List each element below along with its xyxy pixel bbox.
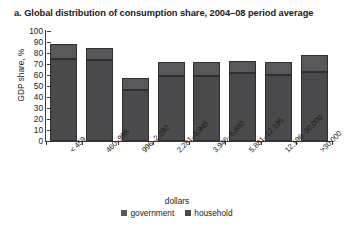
y-axis-tick: 80 (0, 48, 52, 58)
plot-area (46, 31, 332, 141)
y-axis-tick-label: 90 (34, 37, 43, 47)
legend-swatch-household (185, 210, 191, 216)
y-axis-tick-label: 70 (34, 59, 43, 69)
y-axis-tick-label: 100 (29, 26, 43, 36)
y-axis-tick: 70 (0, 59, 52, 69)
y-axis-tick: 40 (0, 92, 52, 102)
y-axis-tick: 30 (0, 103, 52, 113)
y-axis-tick: 90 (0, 37, 52, 47)
bar-segment-government[interactable] (86, 48, 113, 60)
bar-group[interactable] (86, 48, 113, 142)
y-axis-tick-label: 30 (34, 103, 43, 113)
y-axis-tick-label: 10 (34, 125, 43, 135)
bar-group[interactable] (50, 44, 77, 141)
bar-segment-government[interactable] (229, 61, 256, 73)
bar-segment-government[interactable] (193, 62, 220, 76)
chart-figure: a. Global distribution of consumption sh… (0, 0, 354, 227)
y-axis-tick: 0 (0, 136, 52, 146)
y-axis-tick-label: 20 (34, 114, 43, 124)
bar-segment-government[interactable] (265, 62, 292, 75)
y-axis-tick: 60 (0, 70, 52, 80)
y-axis-tick: 100 (0, 26, 52, 36)
bar-segment-household[interactable] (86, 60, 113, 141)
y-axis-tick: 20 (0, 114, 52, 124)
legend-label: household (194, 208, 232, 218)
legend-swatch-government (121, 210, 127, 216)
x-axis-label: dollars (0, 196, 354, 206)
y-axis-tick-label: 60 (34, 70, 43, 80)
y-axis-tick-label: 40 (34, 92, 43, 102)
legend-label: government (130, 208, 174, 218)
y-axis-tick-label: 0 (38, 136, 43, 146)
bar-segment-government[interactable] (122, 78, 149, 90)
y-axis-tick: 50 (0, 81, 52, 91)
bar-segment-government[interactable] (158, 62, 185, 76)
y-axis-tick: 10 (0, 125, 52, 135)
y-axis-tick-label: 80 (34, 48, 43, 58)
bar-segment-government[interactable] (301, 55, 328, 72)
bar-segment-government[interactable] (50, 44, 77, 58)
legend-item-government[interactable]: government (121, 208, 174, 218)
y-axis-tick-label: 50 (34, 81, 43, 91)
legend-item-household[interactable]: household (185, 208, 232, 218)
x-axis-tick-mark (46, 141, 47, 145)
chart-title: a. Global distribution of consumption sh… (14, 8, 350, 19)
chart-legend: governmenthousehold (0, 208, 354, 218)
bar-segment-household[interactable] (50, 59, 77, 142)
